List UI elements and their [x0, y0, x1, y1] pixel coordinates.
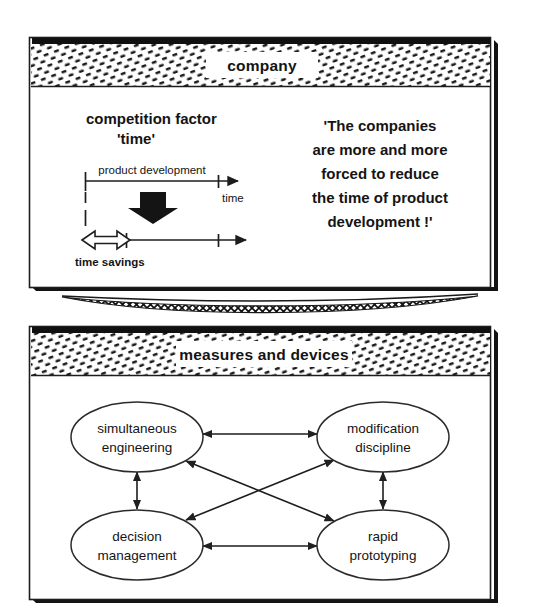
node-label-line2: management	[98, 548, 177, 563]
node-label-line2: discipline	[355, 440, 411, 455]
node-modification-discipline[interactable]: modification discipline	[317, 402, 449, 472]
node-ellipse	[317, 510, 449, 580]
node-ellipse	[71, 402, 203, 472]
node-decision-management[interactable]: decision management	[71, 510, 203, 580]
company-panel: company competition factor 'time' produc…	[30, 38, 499, 292]
product-development-label: product development	[98, 164, 206, 176]
quote-line-4: the time of product	[312, 189, 448, 206]
company-panel-title: company	[227, 57, 297, 74]
node-simultaneous-engineering[interactable]: simultaneous engineering	[71, 402, 203, 472]
node-label-line2: prototyping	[350, 548, 417, 563]
competition-factor-heading-line2: 'time'	[117, 130, 155, 147]
node-label-line1: decision	[112, 529, 162, 544]
quote-line-1: 'The companies	[324, 117, 437, 134]
quote-line-5: development !'	[327, 213, 432, 230]
slide-figure: company competition factor 'time' produc…	[0, 0, 538, 614]
quote-line-2: are more and more	[312, 141, 447, 158]
node-label-line2: engineering	[102, 440, 173, 455]
quote-line-3: forced to reduce	[321, 165, 439, 182]
node-label-line1: rapid	[368, 529, 398, 544]
node-ellipse	[317, 402, 449, 472]
competition-factor-heading-line1: competition factor	[86, 110, 217, 127]
measures-panel-topbar	[32, 327, 490, 333]
time-savings-label: time savings	[75, 256, 145, 268]
lens-top-edge	[62, 294, 478, 301]
company-quote: 'The companies are more and more forced …	[312, 117, 448, 230]
measures-panel-title: measures and devices	[179, 346, 348, 363]
node-label-line1: modification	[347, 421, 419, 436]
lens-connector	[62, 294, 478, 313]
time-axis-name: time	[222, 192, 244, 204]
measures-panel: measures and devices simultaneous	[30, 327, 499, 604]
node-label-line1: simultaneous	[97, 421, 177, 436]
figure-root: company competition factor 'time' produc…	[0, 0, 538, 614]
node-ellipse	[71, 510, 203, 580]
company-panel-topbar	[32, 38, 490, 44]
node-rapid-prototyping[interactable]: rapid prototyping	[317, 510, 449, 580]
